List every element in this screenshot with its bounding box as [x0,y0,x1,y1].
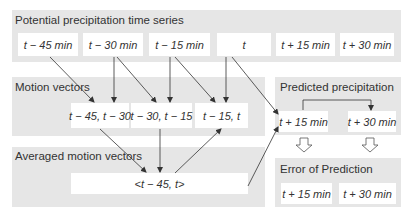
series-box-t-minus-15: t − 15 min [149,33,210,56]
series-box-t-minus-45: t − 45 min [18,33,78,56]
motion-box-15-t: t − 15, t [195,103,248,128]
panel-title-motion-vectors: Motion vectors [15,81,90,93]
hollow-arrow-down-15 [296,138,312,152]
motion-box-45-30: t − 45, t − 30 [71,103,129,128]
series-box-t-plus-30: t + 30 min [340,33,394,56]
motion-box-30-15: t − 30, t − 15 [131,103,192,128]
averaged-box: <t − 45, t> [71,173,248,194]
error-box-t-plus-15: t + 15 min [281,183,332,204]
panel-title-error-of-prediction: Error of Prediction [280,163,373,175]
series-box-t-plus-15: t + 15 min [276,33,335,56]
panel-title-predicted-precipitation: Predicted precipitation [280,81,394,93]
series-box-t-minus-30: t − 30 min [83,33,143,56]
predicted-box-t-plus-30: t + 30 min [348,111,396,132]
panel-title-averaged-motion-vectors: Averaged motion vectors [15,150,142,162]
error-box-t-plus-30: t + 30 min [339,183,396,204]
hollow-arrow-down-30 [362,138,378,152]
panel-title-time-series: Potential precipitation time series [15,14,184,26]
series-box-t: t [217,33,271,56]
predicted-box-t-plus-15: t + 15 min [279,111,328,132]
